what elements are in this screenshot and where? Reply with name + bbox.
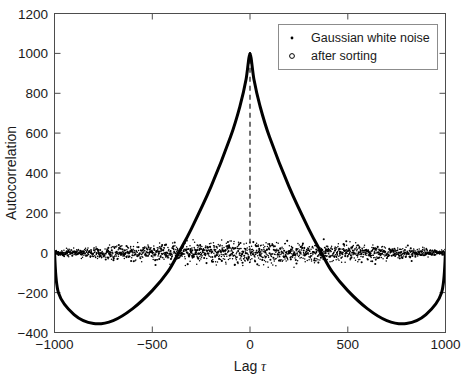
x-tick-label: 500 [337,337,360,352]
legend-entry-gaussian-white-noise: Gaussian white noise [291,31,430,45]
y-tick-label: 1200 [18,7,48,22]
y-tick-label: 400 [25,166,48,181]
x-tick-label: −500 [137,337,167,352]
y-tick-label: 600 [25,126,48,141]
y-tick-label: −200 [18,286,48,301]
figure-root: 1200 1000 800 600 400 200 0 −200 −400 −1… [0,0,469,380]
y-tick-label: 1000 [18,46,48,61]
autocorrelation-chart: 1200 1000 800 600 400 200 0 −200 −400 −1… [0,0,469,380]
x-tick-label: 1000 [430,337,460,352]
x-tick-label: 0 [246,337,254,352]
y-axis-title: Autocorrelation [3,126,19,220]
y-tick-label: 800 [25,86,48,101]
x-tick-label: −1000 [36,337,74,352]
legend-label: Gaussian white noise [311,31,430,45]
x-axis-title: Lag τ [234,358,267,374]
y-tick-label: 0 [40,246,48,261]
x-axis-title-text: Lag [234,358,257,374]
filled-dot-icon [291,37,294,40]
chart-svg: 1200 1000 800 600 400 200 0 −200 −400 −1… [0,0,469,380]
legend-label: after sorting [311,49,377,63]
legend: Gaussian white noise after sorting [279,25,438,70]
y-tick-label: 200 [25,206,48,221]
